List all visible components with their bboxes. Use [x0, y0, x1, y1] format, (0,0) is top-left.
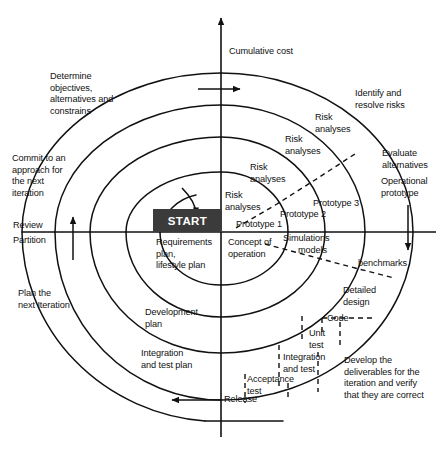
quadrant-identify-resolve-risks: Identify andresolve risks [355, 88, 405, 111]
risk-analyses-3: Riskanalyses [285, 134, 320, 157]
benchmarks-label: benchmarks [358, 258, 407, 270]
review-label: Review [13, 220, 43, 232]
cumulative-cost-label: Cumulative cost [229, 46, 293, 58]
quadrant-determine-objectives: Determineobjectives,alternatives andcons… [50, 71, 113, 117]
release-label: Release [224, 394, 257, 406]
quadrant-plan-next-iteration: Plan thenext Iteration [18, 288, 70, 311]
development-plan-label: Developmentplan [145, 307, 198, 330]
risk-analyses-2: Riskanalyses [250, 162, 285, 185]
detailed-design-label: Detaileddesign [343, 285, 376, 308]
unit-test-label: Unittest [309, 328, 325, 351]
risk-analyses-1: Riskanalyses [225, 190, 260, 213]
commit-to-approach-label: Commit to anapproach forthe nextiteratio… [12, 153, 65, 199]
prototype-2-label: Prototype 2 [280, 209, 326, 221]
requirements-plan-label: Requirementsplan,lifestyle plan [156, 237, 212, 272]
evaluate-alternatives-label: Evaluatealternatives [382, 148, 428, 171]
simulations-models-label: Simulationsmodels [283, 233, 329, 256]
risk-analyses-4: Riskanalyses [315, 112, 350, 135]
code-label: Code [327, 313, 349, 325]
quadrant-develop-deliverables: Develop thedeliverables for theiteration… [344, 355, 424, 401]
concept-of-operation-label: Concept ofoperation [228, 237, 271, 260]
integration-and-test-plan-label: Integrationand test plan [141, 348, 192, 371]
prototype-1-label: Prototype 1 [236, 219, 282, 231]
start-label: START [153, 209, 222, 232]
operational-prototype-label: Operationalprototype [381, 176, 427, 199]
integration-and-test-label: Integrationand test [283, 352, 325, 375]
prototype-3-label: Prototype 3 [313, 198, 359, 210]
partition-label: Partition [13, 235, 46, 247]
